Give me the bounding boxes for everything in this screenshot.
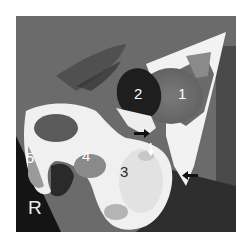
label-1: 1 — [178, 86, 186, 101]
label-2: 2 — [134, 86, 142, 101]
label-3: 3 — [120, 164, 128, 179]
side-marker-r: R — [28, 198, 42, 217]
ct-scan-image: 1 2 3 4 5 R — [16, 16, 236, 232]
ct-anatomy-graphic — [16, 16, 236, 232]
label-5: 5 — [26, 150, 34, 165]
label-4: 4 — [82, 148, 90, 163]
